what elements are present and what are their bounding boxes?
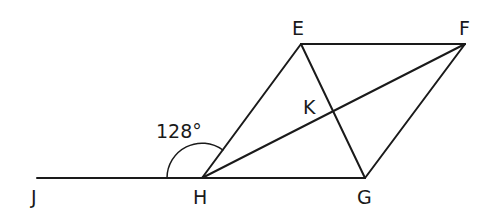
label-h: H xyxy=(193,186,207,208)
label-k: K xyxy=(303,96,316,118)
geometry-diagram: J H G E F K 128° xyxy=(0,0,496,224)
label-e: E xyxy=(292,17,304,39)
label-g: G xyxy=(357,186,372,208)
label-j: J xyxy=(30,186,37,208)
angle-label: 128° xyxy=(156,120,202,142)
diagonal-hf xyxy=(202,44,465,178)
label-f: F xyxy=(459,17,470,39)
segment-he xyxy=(202,44,301,178)
segment-fg xyxy=(365,44,465,178)
